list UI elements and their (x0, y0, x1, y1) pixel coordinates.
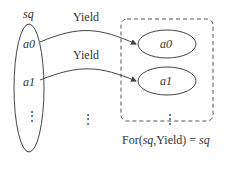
caption-mid: ,Yield) = (153, 133, 199, 147)
source-item-1: a1 (23, 76, 35, 88)
caption-prefix: For( (122, 133, 143, 147)
result-container-dashed-box (121, 19, 213, 121)
caption-arg: sq (143, 133, 154, 147)
yield-arrow-0 (40, 31, 136, 44)
yield-arrow-1 (40, 69, 136, 81)
caption-result: sq (199, 133, 210, 147)
target-item-0: a0 (160, 38, 172, 50)
target-item-1: a1 (160, 75, 172, 87)
arrow-label-1: Yield (73, 49, 99, 61)
source-label: sq (23, 8, 34, 20)
source-ellipsis: ⋮ (26, 110, 38, 122)
arrow-label-0: Yield (73, 11, 99, 23)
target-ellipsis: ⋮ (164, 113, 176, 125)
middle-ellipsis: ⋮ (82, 113, 94, 125)
caption: For(sq,Yield) = sq (122, 134, 210, 146)
source-item-0: a0 (23, 38, 35, 50)
